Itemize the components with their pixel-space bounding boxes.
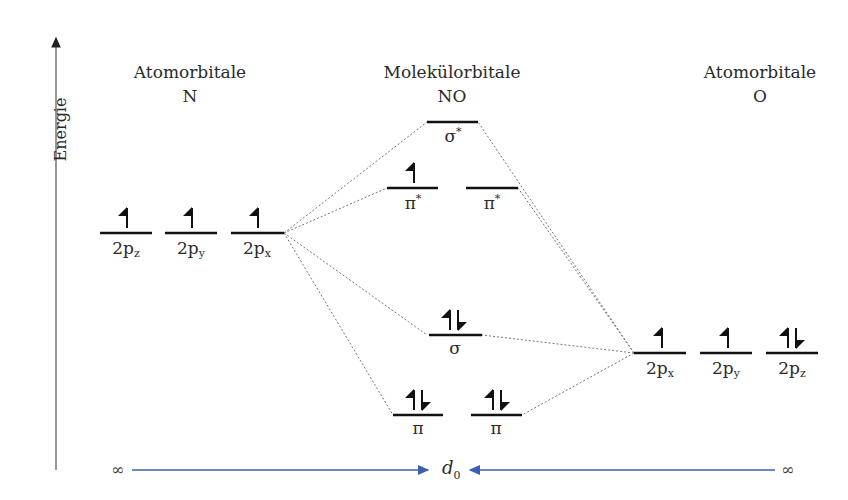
n-orbital-label-2px: 2px [231,238,283,260]
equilibrium-distance-label: d0 [442,457,461,482]
electron-up-icon [183,207,192,228]
electron-up-icon [249,207,258,228]
atom-label: O [690,84,830,108]
o-orbital-label-2px: 2px [634,358,686,380]
column-header-n: Atomorbitale N [120,60,260,108]
electron-up-icon [405,389,414,410]
atom-label: N [120,84,260,108]
infinity-right-label: ∞ [781,460,794,479]
electron-down-icon [796,328,805,349]
mo-label-pi-star-1: π* [387,192,439,213]
molecule-label: NO [372,84,532,108]
electron-up-icon [779,327,788,348]
mo-label-pi-2: π [471,418,521,438]
column-header-no: Molekülorbitale NO [372,60,532,108]
mo-label-pi-1: π [393,418,443,438]
electron-down-icon [501,390,510,411]
electron-up-icon [118,207,127,228]
column-header-o: Atomorbitale O [690,60,830,108]
electron-up-icon [719,327,728,348]
mo-label-sigma-star: σ* [427,125,479,146]
n-orbital-label-2py: 2py [165,238,217,260]
n-orbital-label-2pz: 2pz [100,238,152,260]
correlation-lines [284,122,634,415]
column-title: Atomorbitale [690,60,830,84]
infinity-left-label: ∞ [111,460,124,479]
electron-up-icon [405,162,414,183]
o-orbital-label-2py: 2py [700,358,752,380]
o-orbital-label-2pz: 2pz [766,358,818,380]
electron-down-icon [458,310,467,331]
electron-up-icon [441,309,450,330]
mo-label-sigma: σ [429,338,481,358]
column-title: Atomorbitale [120,60,260,84]
electron-up-icon [484,389,493,410]
electron-down-icon [422,390,431,411]
mo-label-pi-star-2: π* [466,192,518,213]
column-title: Molekülorbitale [372,60,532,84]
energy-axis-label: Energie [51,90,70,170]
electron-up-icon [653,327,662,348]
